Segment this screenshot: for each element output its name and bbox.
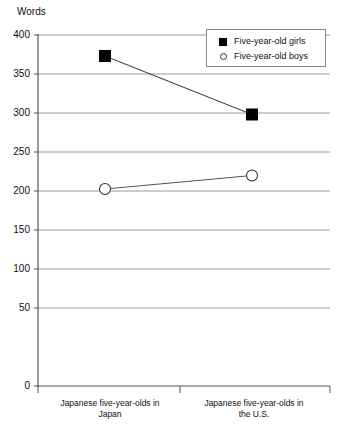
data-point-girls-us [246,109,258,121]
y-tick-label-100: 100 [0,264,30,274]
filled-square-icon [215,38,231,46]
legend-item-girls: Five-year-old girls [215,34,325,49]
legend-item-boys: Five-year-old boys [215,49,325,64]
y-tick-label-400: 400 [0,30,30,40]
y-tick-label-0: 0 [0,381,30,391]
x-tick-label-japan: Japanese five-year-olds in Japan [40,398,180,420]
line-chart: Words [0,0,338,432]
x-tick-label-japan-line1: Japanese five-year-olds in [40,398,180,409]
x-tick-label-japan-line2: Japan [40,409,180,420]
legend-label-girls: Five-year-old girls [231,36,306,47]
x-axis [38,386,330,393]
y-tick-label-350: 350 [0,69,30,79]
x-tick-label-us-line2: the U.S. [184,409,324,420]
legend: Five-year-old girls Five-year-old boys [206,29,326,67]
data-point-girls-japan [99,50,111,62]
y-tick-label-50: 50 [0,303,30,313]
gridlines [38,35,330,308]
y-tick-label-250: 250 [0,147,30,157]
open-circle-icon [215,53,231,60]
y-tick-label-150: 150 [0,225,30,235]
x-tick-label-us: Japanese five-year-olds in the U.S. [184,398,324,420]
y-tick-label-300: 300 [0,108,30,118]
y-tick-label-200: 200 [0,186,30,196]
series-boys-line [105,176,252,190]
data-point-boys-japan [100,184,111,195]
legend-label-boys: Five-year-old boys [231,51,308,62]
x-tick-label-us-line1: Japanese five-year-olds in [184,398,324,409]
data-point-boys-us [247,170,258,181]
y-axis [34,34,38,387]
